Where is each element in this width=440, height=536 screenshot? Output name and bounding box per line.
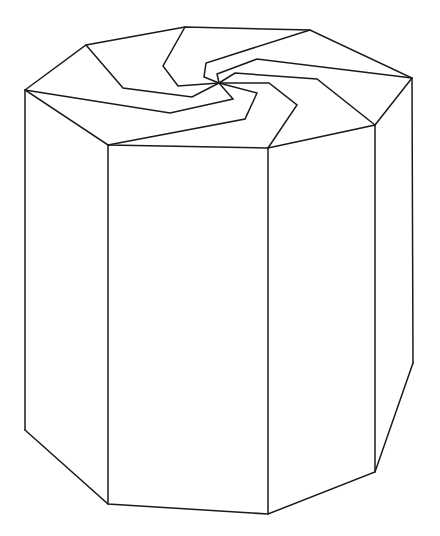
top-octagon [25,27,412,148]
bottom-edge-outline [25,363,413,514]
swirl-arm-7 [25,83,233,113]
swirl-arm-1 [163,27,219,86]
swirl-arm-6 [108,83,257,145]
swirl-arm-5 [219,83,297,148]
bottom-outline [25,363,413,514]
prism-drawing [0,0,440,536]
vertical-edges [25,78,413,514]
octagonal-prism-figure [0,0,440,536]
swirl-arm-8 [86,45,219,97]
swirl-arm-4 [219,73,375,125]
vertical-edge-5 [412,78,413,363]
top-face-outline [25,27,412,148]
